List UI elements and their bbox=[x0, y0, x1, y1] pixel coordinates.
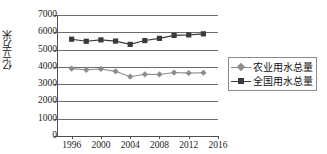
legend-label-national: 全国用水总量 bbox=[253, 76, 313, 87]
data-point-square-icon bbox=[128, 42, 133, 47]
data-point-diamond-icon bbox=[98, 66, 104, 72]
data-point-diamond-icon bbox=[156, 71, 162, 77]
legend: 农业用水总量 全国用水总量 bbox=[228, 57, 317, 91]
legend-label-agricultural: 农业用水总量 bbox=[253, 62, 313, 73]
series-national bbox=[69, 31, 206, 47]
legend-key-diamond-icon bbox=[231, 62, 251, 72]
series-line bbox=[72, 69, 204, 77]
data-point-square-icon bbox=[113, 39, 118, 44]
legend-item-agricultural[interactable]: 农业用水总量 bbox=[231, 60, 313, 74]
data-point-diamond-icon bbox=[171, 69, 177, 75]
data-point-square-icon bbox=[69, 37, 74, 42]
data-point-square-icon bbox=[98, 37, 103, 42]
data-point-diamond-icon bbox=[200, 70, 206, 76]
data-point-square-icon bbox=[186, 32, 191, 37]
data-point-diamond-icon bbox=[112, 68, 118, 74]
data-point-square-icon bbox=[142, 38, 147, 43]
series-line bbox=[72, 34, 204, 45]
data-point-diamond-icon bbox=[127, 74, 133, 80]
data-point-diamond-icon bbox=[142, 71, 148, 77]
data-point-diamond-icon bbox=[186, 70, 192, 76]
data-point-square-icon bbox=[171, 33, 176, 38]
legend-key-square-icon bbox=[231, 76, 251, 86]
data-point-square-icon bbox=[157, 36, 162, 41]
data-point-diamond-icon bbox=[83, 67, 89, 73]
data-point-square-icon bbox=[84, 39, 89, 44]
legend-item-national[interactable]: 全国用水总量 bbox=[231, 74, 313, 88]
data-point-square-icon bbox=[201, 31, 206, 36]
chart-container: 亿立方米 01000200030004000500060007000 19962… bbox=[0, 0, 327, 154]
data-point-diamond-icon bbox=[69, 65, 75, 71]
series-agricultural bbox=[69, 65, 207, 79]
